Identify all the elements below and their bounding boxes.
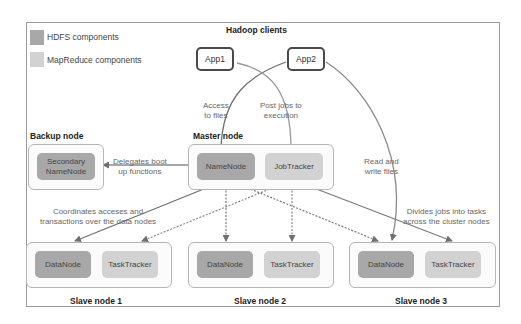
datanode-1: DataNode: [35, 251, 91, 278]
secondary-namenode: Secondary NameNode: [37, 153, 95, 180]
jobtracker: JobTracker: [265, 153, 323, 180]
edge-app2-to-datanode3: [326, 62, 396, 240]
master-node-title: Master node: [193, 131, 243, 141]
legend-mapreduce-label: MapReduce components: [47, 55, 142, 65]
datanode-3: DataNode: [358, 251, 414, 278]
slave-node-2-title: Slave node 2: [234, 296, 286, 306]
master-node: NameNode JobTracker: [188, 144, 334, 190]
label-divides: Divides jobs into tasksacross the cluste…: [403, 207, 490, 228]
tasktracker-1: TaskTracker: [102, 251, 158, 278]
tasktracker-2: TaskTracker: [264, 251, 320, 278]
backup-node: Secondary NameNode: [28, 144, 104, 190]
label-coordinates: Coordinates acceses andtransactions over…: [40, 207, 156, 228]
datanode-2: DataNode: [197, 251, 253, 278]
diagram-title: Hadoop clients: [226, 25, 287, 35]
legend-hdfs-swatch: [30, 30, 44, 45]
legend-mapreduce-swatch: [30, 52, 44, 67]
namenode: NameNode: [197, 153, 255, 180]
slave-node-3: DataNode TaskTracker: [349, 242, 496, 288]
client-app1: App1: [196, 47, 234, 71]
backup-node-title: Backup node: [30, 131, 83, 141]
slave-node-1-title: Slave node 1: [70, 296, 122, 306]
client-app2: App2: [287, 47, 325, 71]
tasktracker-3: TaskTracker: [425, 251, 481, 278]
slave-node-2: DataNode TaskTracker: [188, 242, 334, 288]
slave-node-3-title: Slave node 3: [395, 296, 447, 306]
slave-node-1: DataNode TaskTracker: [26, 242, 172, 288]
label-delegates: Delegates bootup functions: [113, 157, 167, 178]
label-read-write: Read andwrite files: [364, 157, 399, 178]
legend-hdfs-label: HDFS components: [47, 32, 119, 42]
label-post-jobs: Post jobs toexecution: [260, 101, 302, 122]
label-access-files: Accessto files: [203, 101, 229, 122]
